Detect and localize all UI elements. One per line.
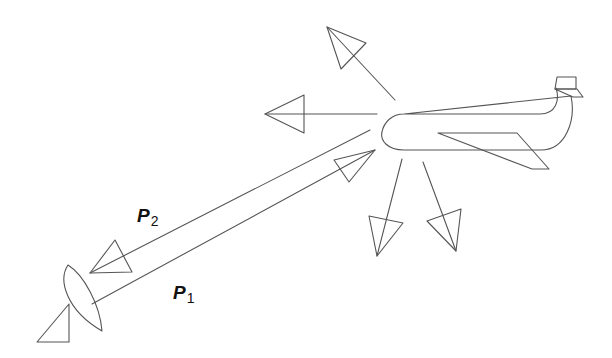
diagram-canvas <box>0 0 612 358</box>
airplane-icon <box>382 77 583 169</box>
edge-p1-arrow <box>92 150 375 304</box>
scatter-arrow-up-left <box>327 27 395 100</box>
edge-label-p2: P2 <box>137 205 158 229</box>
edge-p2-arrow <box>90 130 370 273</box>
edge-label-p2-base: P <box>137 205 150 226</box>
edge-label-p1-base: P <box>173 282 186 303</box>
edge-label-p2-sub: 2 <box>151 213 159 229</box>
edge-label-p1: P1 <box>173 282 194 306</box>
scatter-arrow-down-left <box>369 159 403 256</box>
edge-label-p1-sub: 1 <box>187 290 195 306</box>
scatter-arrow-down <box>423 162 461 251</box>
scatter-arrow-left <box>265 95 377 133</box>
